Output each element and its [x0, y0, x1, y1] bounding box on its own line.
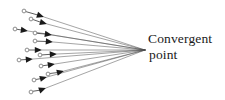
convergent-point-label-line-1: Convergent	[148, 31, 212, 47]
arrow-tail-marker	[38, 53, 42, 57]
arrow-tail-marker	[32, 78, 36, 82]
convergent-point-label: Convergent point	[148, 31, 212, 62]
arrow-tail-marker	[33, 31, 37, 35]
arrow-tail-marker	[29, 17, 33, 21]
arrow-tail-marker	[25, 48, 29, 52]
arrow-tail-marker	[33, 39, 37, 43]
arrow-tail-marker	[13, 27, 17, 31]
arrow-tail-marker	[22, 9, 26, 13]
arrow-tail-marker	[39, 64, 43, 68]
arrow-tail-marker	[46, 72, 50, 76]
arrow-tail-marker	[17, 58, 21, 62]
arrow-shaft	[42, 54, 51, 55]
convergent-point-label-line-2: point	[148, 47, 212, 63]
arrow-tail-marker	[29, 90, 33, 94]
